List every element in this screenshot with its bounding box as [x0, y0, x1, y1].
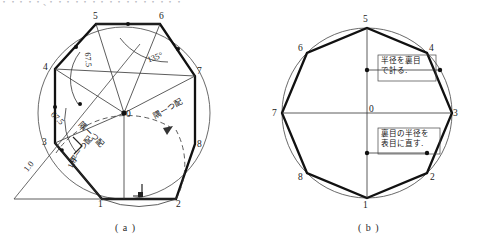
figure-a-vertex-label-1: 1 — [98, 199, 103, 209]
figure-b-callout-lower-line2: 表目に直す. — [381, 139, 423, 148]
figure-a-slant-dimension-line — [14, 44, 140, 199]
figure-a-angle-arc-675-upper — [70, 52, 80, 104]
figure-a-nodes — [53, 22, 180, 152]
figure-b-group — [282, 28, 452, 198]
technical-drawing-canvas — [0, 0, 477, 247]
figure-a-vertex-label-2: 2 — [176, 199, 181, 209]
figure-b-vertex-label-3: 3 — [453, 108, 458, 118]
figure-a-vertex-label-0: 0 — [126, 109, 131, 119]
figure-a-arrowhead — [163, 126, 173, 135]
figure-sheet: ・・・・・、・・・・・・・・・・・・・・・・ — [0, 0, 477, 247]
figure-a-vertex-label-3: 3 — [42, 137, 47, 147]
figure-a-swing-arc-right — [176, 130, 185, 199]
figure-a-right-angle-fill — [138, 192, 143, 197]
figure-b-callout-lower-line1: 裏目の半径を — [381, 129, 429, 138]
figure-a-line-4-7 — [55, 69, 195, 76]
figure-a-vertex-label-6: 6 — [159, 11, 164, 21]
figure-b-vertex-label-2: 2 — [430, 172, 435, 182]
figure-a-vertex-label-8: 8 — [197, 139, 202, 149]
figure-b-callout-upper-line1: 半径を裏目 — [381, 56, 421, 65]
figure-a-group — [14, 22, 210, 207]
figure-b-vertex-label-6: 6 — [298, 43, 303, 53]
figure-b-vertex-label-4: 4 — [429, 43, 434, 53]
figure-b-caption: ( b ) — [358, 222, 380, 233]
figure-b-vertex-label-1: 1 — [363, 200, 368, 210]
figure-b-vertex-label-5: 5 — [363, 14, 368, 24]
figure-a-angle-675-upper-label: 67.5 — [83, 52, 93, 67]
figure-b-vertex-label-0: 0 — [369, 104, 374, 114]
figure-b-vertex-label-7: 7 — [272, 108, 277, 118]
figure-b-callout-upper-line2: で計る. — [381, 66, 407, 75]
figure-a-caption: ( a ) — [115, 222, 136, 233]
figure-a-vertex-label-4: 4 — [43, 62, 48, 72]
figure-a-vertex-label-5: 5 — [93, 11, 98, 21]
figure-b-vertex-label-8: 8 — [298, 172, 303, 182]
figure-a-vertex-label-7: 7 — [197, 66, 202, 76]
